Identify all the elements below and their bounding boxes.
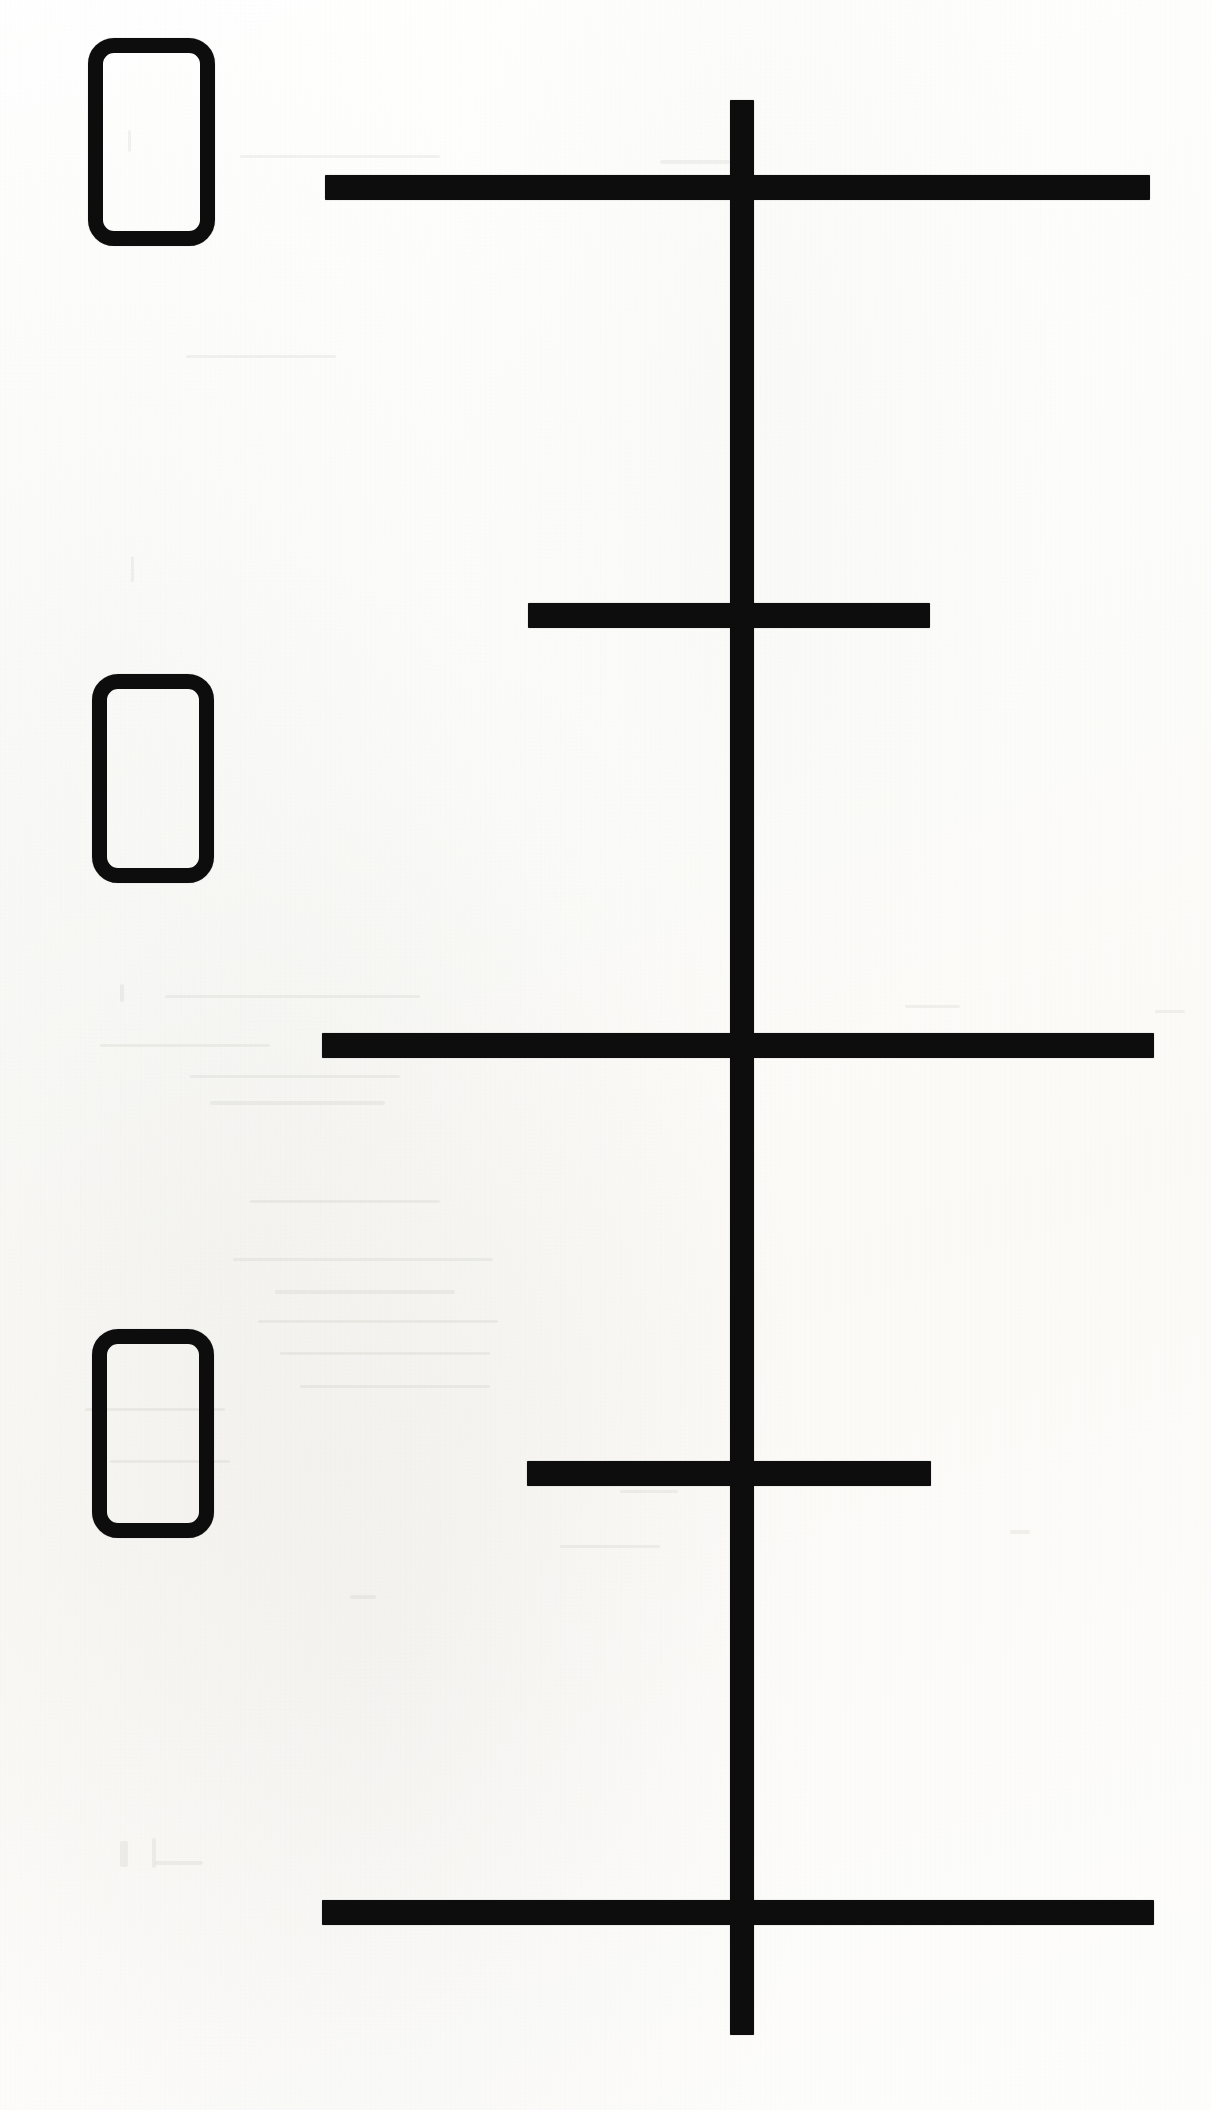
rounded-box-1 <box>88 38 215 246</box>
ghost-smudge-25 <box>560 1545 660 1548</box>
ghost-smudge-1 <box>240 155 440 158</box>
scanned-page <box>0 0 1211 2110</box>
ghost-smudge-2 <box>660 160 730 164</box>
ghost-smudge-14 <box>258 1320 498 1323</box>
ghost-smudge-22 <box>152 1838 156 1868</box>
ghost-smudge-16 <box>300 1385 490 1388</box>
rounded-box-1-interior <box>103 53 200 231</box>
ghost-smudge-27 <box>1010 1530 1030 1534</box>
ghost-smudge-26 <box>620 1490 678 1493</box>
ghost-smudge-12 <box>233 1258 493 1261</box>
horizontal-stroke-2 <box>528 603 930 628</box>
horizontal-stroke-5 <box>322 1900 1154 1925</box>
ghost-smudge-7 <box>165 995 420 998</box>
ghost-smudge-20 <box>1155 1010 1185 1013</box>
rounded-box-3-interior <box>107 1344 199 1523</box>
ghost-smudge-24 <box>350 1595 376 1599</box>
horizontal-stroke-1 <box>325 175 1150 200</box>
rounded-box-2 <box>92 674 214 883</box>
ghost-smudge-19 <box>905 1005 960 1008</box>
rounded-box-3 <box>92 1329 214 1538</box>
ghost-smudge-15 <box>280 1352 490 1355</box>
horizontal-stroke-4 <box>527 1461 931 1486</box>
vertical-axis-stroke <box>730 100 754 2035</box>
ghost-smudge-23 <box>155 1861 203 1865</box>
ghost-smudge-8 <box>100 1044 270 1047</box>
rounded-box-2-interior <box>107 689 199 868</box>
ghost-smudge-21 <box>120 1841 128 1867</box>
ghost-smudge-5 <box>131 556 134 582</box>
ghost-smudge-4 <box>186 355 336 358</box>
ghost-smudge-9 <box>190 1075 400 1078</box>
ghost-smudge-6 <box>120 984 124 1002</box>
ghost-smudge-11 <box>250 1200 440 1203</box>
horizontal-stroke-3 <box>322 1033 1154 1058</box>
ghost-smudge-13 <box>275 1290 455 1294</box>
ghost-smudge-10 <box>210 1101 385 1105</box>
